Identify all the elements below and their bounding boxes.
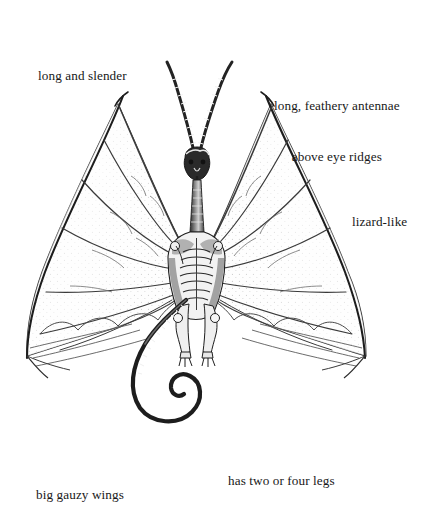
annotation-long-and-slender: long and slender [38,33,127,101]
annotation-line: long, feathery antennae [274,97,400,114]
annotation-line: big gauzy wings [36,486,124,503]
annotation-line: lizard-like [352,213,407,230]
annotation-line: above eye ridges [274,148,400,165]
annotation-line: has two or four legs [228,472,335,489]
right-eye [201,160,206,165]
annotation-big-gauzy-wings: big gauzy wings [36,452,124,506]
annotation-lizard-like: lizard-like [352,179,407,247]
annotation-has-two-or-four-legs: has two or four legs [228,438,335,506]
annotation-line: long and slender [38,67,127,84]
annotation-feathery-antennae: long, feathery antennae above eye ridges [274,63,400,182]
left-eye [189,160,194,165]
right-knee [211,314,220,323]
